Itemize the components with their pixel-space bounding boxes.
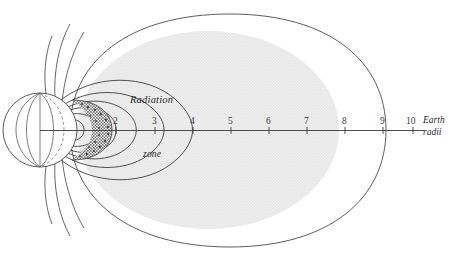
axis-unit-label-line1: Earth <box>423 115 445 126</box>
radiation-zone-label-line1: Radiation <box>130 94 173 105</box>
axis-label-10: 10 <box>406 116 416 126</box>
radiation-belt-diagram: Radiation zone Earth radii 2 3 4 5 6 7 8… <box>0 0 455 261</box>
open-field-line-north-1 <box>62 32 84 104</box>
axis-label-4: 4 <box>190 116 195 126</box>
axis-label-8: 8 <box>342 116 347 126</box>
axis-label-6: 6 <box>266 116 271 126</box>
axis-unit-label-line2: radii <box>423 127 441 138</box>
open-field-line-south-1 <box>62 156 84 228</box>
axis-label-3: 3 <box>152 116 157 126</box>
earth-globe <box>3 93 77 167</box>
axis-label-2: 2 <box>113 116 118 126</box>
axis-label-7: 7 <box>304 116 309 126</box>
axis-label-5: 5 <box>228 116 233 126</box>
axis-label-9: 9 <box>380 116 385 126</box>
diagram-canvas <box>0 0 455 261</box>
radiation-zone-label-line2: zone <box>143 149 161 159</box>
